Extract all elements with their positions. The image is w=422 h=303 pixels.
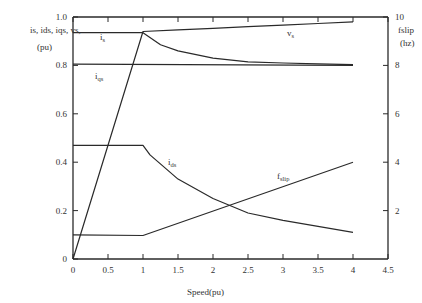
x-tick-label: 1.5 bbox=[172, 265, 184, 275]
y-tick-label-right: 10 bbox=[395, 12, 405, 22]
y-tick-label-left: 1.0 bbox=[56, 12, 68, 22]
x-tick-label: 3 bbox=[281, 265, 286, 275]
y-tick-label-left: 0 bbox=[63, 254, 68, 264]
curve-label-ids: ids bbox=[168, 157, 177, 168]
ylabel-left-unit: (pu) bbox=[37, 42, 52, 52]
x-tick-label: 4 bbox=[351, 265, 356, 275]
curve-label-iqs: iqs bbox=[95, 71, 104, 82]
y-tick-label-right: 6 bbox=[395, 109, 400, 119]
x-tick-label: 4.5 bbox=[382, 265, 394, 275]
y-tick-label-right: 8 bbox=[395, 60, 400, 70]
x-tick-label: 2 bbox=[211, 265, 216, 275]
xlabel: Speed(pu) bbox=[187, 287, 224, 297]
series-line-0 bbox=[73, 22, 353, 259]
y-tick-label-left: 0.6 bbox=[56, 109, 68, 119]
curve-label-is: is bbox=[100, 32, 106, 43]
chart-canvas: 00.511.522.533.544.500.20.40.60.81.02468… bbox=[0, 0, 422, 303]
x-tick-label: 0 bbox=[71, 265, 76, 275]
ylabel-right: fslip bbox=[398, 25, 415, 35]
x-tick-label: 2.5 bbox=[242, 265, 254, 275]
annotations: is, ids, iqs, vs, (pu) fslip (hz) Speed(… bbox=[30, 25, 415, 297]
y-tick-label-right: 2 bbox=[395, 206, 400, 216]
series-line-3 bbox=[73, 145, 353, 232]
y-tick-label-left: 0.8 bbox=[56, 60, 68, 70]
series-line-1 bbox=[73, 33, 353, 65]
x-tick-label: 1 bbox=[141, 265, 146, 275]
curve-label-vs: vs bbox=[287, 28, 295, 39]
series-lines bbox=[73, 22, 353, 259]
x-tick-label: 0.5 bbox=[102, 265, 114, 275]
ylabel-left: is, ids, iqs, vs, bbox=[30, 25, 81, 35]
y-tick-label-left: 0.2 bbox=[56, 206, 67, 216]
y-tick-label-right: 4 bbox=[395, 157, 400, 167]
y-tick-label-left: 0.4 bbox=[56, 157, 68, 167]
x-tick-label: 3.5 bbox=[312, 265, 324, 275]
ylabel-right-unit: (hz) bbox=[400, 38, 415, 48]
series-line-2 bbox=[73, 64, 353, 65]
curve-label-fslip: fslip bbox=[277, 171, 289, 182]
